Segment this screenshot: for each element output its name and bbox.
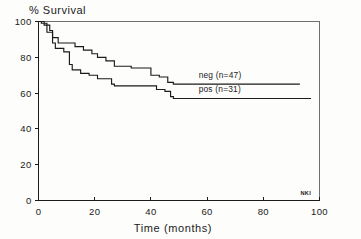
- chart-title: % Survival: [29, 4, 86, 16]
- x-tick-label: 60: [202, 206, 213, 217]
- y-tick-label: 40: [20, 123, 31, 134]
- survival-curve: [39, 22, 312, 99]
- y-tick-label: 80: [20, 52, 31, 63]
- y-tick-label: 0: [26, 195, 32, 206]
- survival-curve: [39, 22, 300, 85]
- x-tick-label: 0: [36, 206, 42, 217]
- y-tick-label: 60: [20, 88, 31, 99]
- survival-chart: 020406080100020406080100% SurvivalTime (…: [0, 0, 361, 239]
- x-axis-title: Time (months): [134, 222, 212, 234]
- chart-page: 020406080100020406080100% SurvivalTime (…: [0, 0, 361, 239]
- x-tick-label: 100: [311, 206, 328, 217]
- y-tick-label: 20: [20, 159, 31, 170]
- x-tick-label: 40: [145, 206, 156, 217]
- nki-watermark: NKI: [301, 190, 312, 196]
- x-tick-label: 20: [89, 206, 100, 217]
- x-tick-label: 80: [258, 206, 269, 217]
- y-tick-label: 100: [15, 16, 32, 27]
- series-label: neg (n=47): [199, 70, 242, 80]
- series-label: pos (n=31): [199, 84, 241, 94]
